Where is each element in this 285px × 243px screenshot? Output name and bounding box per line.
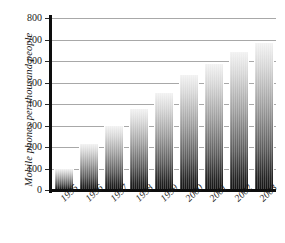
y-axis-tick-label: 700 [8,34,42,45]
bar [229,52,249,190]
bar [204,64,224,190]
gridline [52,18,276,19]
plot-area [52,18,276,190]
y-axis-tick-label: 500 [8,77,42,88]
bar [129,109,149,190]
bar [179,75,199,190]
y-axis-tick-label: 100 [8,163,42,174]
bar-chart: Mobile phones per thousand people 010020… [0,0,285,243]
y-axis-line [49,15,52,193]
bar [154,93,174,190]
y-axis-tick-label: 0 [8,184,42,195]
y-axis-tick-label: 800 [8,12,42,23]
y-axis-tick-label: 300 [8,120,42,131]
y-axis-tick-label: 400 [8,98,42,109]
y-axis-tick-label: 600 [8,55,42,66]
bar [254,43,274,190]
bar [104,126,124,191]
y-axis-tick-label: 200 [8,141,42,152]
gridline [52,40,276,41]
